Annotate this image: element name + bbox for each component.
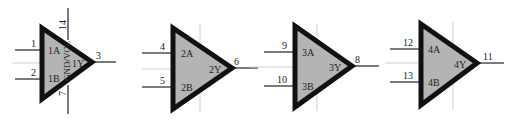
buffer-gate-symbol xyxy=(295,26,352,107)
pin-name: 2Y xyxy=(209,64,221,75)
pin-name: 3Y xyxy=(329,62,341,73)
pin-name: 3A xyxy=(302,47,315,58)
pin-name: 2A xyxy=(181,48,194,59)
power-label: GND/VCC xyxy=(62,40,72,81)
pin-name: 1Y xyxy=(72,58,84,69)
pin-number: 4 xyxy=(160,41,165,52)
pin-number: 1 xyxy=(31,38,36,49)
gate-1: 1 2 3 1A 1B 1Y 14 7 GND/VCC xyxy=(12,8,116,114)
pin-name: 1A xyxy=(48,45,61,56)
pin-number: 8 xyxy=(355,54,360,65)
pin-number: 6 xyxy=(234,56,239,67)
buffer-gate-symbol xyxy=(421,24,477,105)
buffer-gate-symbol xyxy=(173,28,232,109)
power-pin-number-top: 14 xyxy=(57,20,68,30)
schematic-canvas: 1 2 3 1A 1B 1Y 14 7 GND/VCC 4 5 6 2A 2B … xyxy=(0,0,509,122)
pin-number: 13 xyxy=(403,70,413,81)
gate-3: 9 10 8 3A 3B 3Y xyxy=(250,24,379,111)
power-pin-number-bottom: 7 xyxy=(57,91,68,96)
gate-4: 12 13 11 4A 4B 4Y xyxy=(385,22,504,110)
pin-name: 4A xyxy=(428,44,441,55)
pin-name: 4B xyxy=(428,77,440,88)
pin-number: 10 xyxy=(277,74,287,85)
pin-name: 1B xyxy=(48,73,60,84)
pin-number: 9 xyxy=(282,40,287,51)
pin-name: 3B xyxy=(302,81,314,92)
pin-number: 12 xyxy=(403,37,413,48)
pin-name: 4Y xyxy=(454,59,466,70)
pin-number: 2 xyxy=(31,67,36,78)
pin-name: 2B xyxy=(181,82,193,93)
pin-number: 5 xyxy=(160,75,165,86)
gate-2: 4 5 6 2A 2B 2Y xyxy=(142,24,258,113)
pin-number: 3 xyxy=(96,50,101,61)
pin-number: 11 xyxy=(483,51,493,62)
